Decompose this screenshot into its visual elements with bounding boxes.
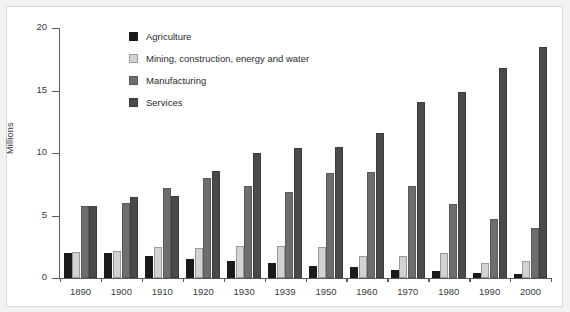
bar[interactable]	[122, 203, 130, 278]
x-axis-tick	[306, 278, 307, 282]
bar[interactable]	[481, 263, 489, 278]
bar[interactable]	[163, 188, 171, 278]
x-axis-tick	[510, 278, 511, 282]
x-axis-tick	[428, 278, 429, 282]
bar[interactable]	[285, 192, 293, 278]
chart-canvas: 05101520 Millions 1890190019101920193019…	[7, 7, 562, 306]
y-axis-tick: 5	[52, 216, 60, 217]
x-axis-tick-label: 2000	[520, 286, 541, 297]
bar[interactable]	[309, 266, 317, 279]
bar[interactable]	[490, 219, 498, 278]
y-axis-title: Millions	[5, 122, 15, 154]
y-axis-tick-label: 20	[36, 21, 47, 32]
bar-group	[309, 28, 343, 278]
bar[interactable]	[236, 246, 244, 279]
x-axis-tick	[551, 278, 552, 282]
bar[interactable]	[539, 47, 547, 278]
bar[interactable]	[244, 186, 252, 279]
x-axis-tick	[60, 278, 61, 282]
bar[interactable]	[350, 267, 358, 278]
bar[interactable]	[113, 251, 121, 279]
y-axis-tick-label: 10	[36, 146, 47, 157]
bar[interactable]	[335, 147, 343, 278]
bar[interactable]	[417, 102, 425, 278]
legend-item[interactable]: Mining, construction, energy and water	[129, 47, 309, 69]
bar[interactable]	[277, 246, 285, 279]
y-axis-tick: 15	[52, 91, 60, 92]
x-axis-tick	[224, 278, 225, 282]
bar[interactable]	[227, 261, 235, 279]
bar[interactable]	[81, 206, 89, 279]
legend-item-label: Agriculture	[146, 31, 191, 42]
x-axis-tick-label: 1910	[152, 286, 173, 297]
bar[interactable]	[294, 148, 302, 278]
bar-group	[473, 28, 507, 278]
bar-group	[350, 28, 384, 278]
y-axis-tick: 0	[52, 278, 60, 279]
chart-frame: 05101520 Millions 1890190019101920193019…	[0, 0, 570, 312]
legend-swatch-icon	[129, 76, 138, 85]
y-axis-tick: 10	[52, 153, 60, 154]
legend-swatch-icon	[129, 54, 138, 63]
y-axis-tick-label: 15	[36, 84, 47, 95]
bar[interactable]	[376, 133, 384, 278]
bar[interactable]	[408, 186, 416, 279]
bar[interactable]	[195, 248, 203, 278]
legend-item[interactable]: Services	[129, 91, 309, 113]
bar[interactable]	[318, 247, 326, 278]
bar[interactable]	[186, 259, 194, 278]
bar[interactable]	[399, 256, 407, 279]
bar[interactable]	[64, 253, 72, 278]
bar[interactable]	[72, 252, 80, 278]
x-axis-tick	[469, 278, 470, 282]
bar-group	[514, 28, 548, 278]
bar[interactable]	[253, 153, 261, 278]
bar[interactable]	[432, 271, 440, 278]
bar[interactable]	[145, 256, 153, 279]
bar[interactable]	[203, 178, 211, 278]
bar[interactable]	[89, 206, 97, 279]
x-axis-tick-label: 1920	[193, 286, 214, 297]
bar-group	[64, 28, 98, 278]
bar[interactable]	[268, 263, 276, 278]
y-axis-tick-label: 5	[42, 209, 47, 220]
bar[interactable]	[367, 172, 375, 278]
x-axis-tick-label: 1939	[274, 286, 295, 297]
x-axis-tick	[387, 278, 388, 282]
x-axis-tick	[101, 278, 102, 282]
bar[interactable]	[531, 228, 539, 278]
bar[interactable]	[171, 196, 179, 279]
bar[interactable]	[104, 253, 112, 278]
bar[interactable]	[449, 204, 457, 278]
x-axis-tick	[265, 278, 266, 282]
legend-swatch-icon	[129, 98, 138, 107]
chart-legend: AgricultureMining, construction, energy …	[129, 25, 309, 113]
y-axis-tick: 20	[52, 28, 60, 29]
bar[interactable]	[359, 256, 367, 279]
bar[interactable]	[522, 261, 530, 279]
y-axis-tick-label: 0	[42, 271, 47, 282]
bar-group	[432, 28, 466, 278]
x-axis-tick-label: 1930	[234, 286, 255, 297]
x-axis-tick-label: 1980	[438, 286, 459, 297]
bar[interactable]	[499, 68, 507, 278]
legend-item-label: Services	[146, 97, 182, 108]
legend-item-label: Manufacturing	[146, 75, 206, 86]
bar[interactable]	[458, 92, 466, 278]
bar[interactable]	[391, 270, 399, 278]
bar[interactable]	[326, 173, 334, 278]
x-axis-tick-label: 1970	[397, 286, 418, 297]
x-axis-tick-label: 1990	[479, 286, 500, 297]
bar-group	[391, 28, 425, 278]
bar[interactable]	[473, 273, 481, 278]
legend-swatch-icon	[129, 32, 138, 41]
legend-item[interactable]: Agriculture	[129, 25, 309, 47]
bar[interactable]	[130, 197, 138, 278]
legend-item[interactable]: Manufacturing	[129, 69, 309, 91]
x-axis-tick	[183, 278, 184, 282]
x-axis-tick	[346, 278, 347, 282]
bar[interactable]	[514, 274, 522, 278]
bar[interactable]	[154, 247, 162, 278]
bar[interactable]	[212, 171, 220, 279]
bar[interactable]	[440, 253, 448, 278]
